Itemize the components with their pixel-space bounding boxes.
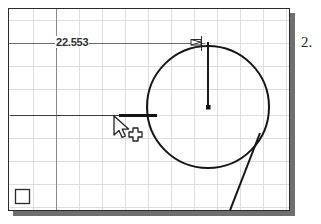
center-point[interactable]	[206, 105, 211, 110]
tangent-diagonal-line[interactable]	[229, 133, 260, 211]
crosshair-plus-icon	[129, 128, 142, 141]
geometry-layer	[9, 9, 290, 211]
page-number-label: 2.	[301, 34, 312, 51]
drawing-canvas[interactable]	[9, 9, 289, 210]
origin-corner-square[interactable]	[16, 190, 30, 204]
cad-viewport[interactable]: 22.553	[8, 8, 290, 211]
dimension-value-label[interactable]: 22.553	[55, 36, 89, 48]
dimension-grip-marker[interactable]	[191, 40, 201, 46]
screenshot-root: 22.553 2.	[0, 0, 321, 224]
cad-pick-cursor	[109, 112, 145, 144]
pointer-arrow-icon	[114, 116, 129, 138]
